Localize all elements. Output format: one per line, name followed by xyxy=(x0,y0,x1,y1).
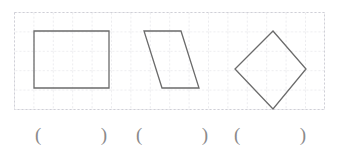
answer-input-3[interactable] xyxy=(240,134,299,135)
answer-slot-1[interactable]: ( ) xyxy=(35,118,107,151)
shape-rectangle xyxy=(34,31,109,88)
answer-slot-2[interactable]: ( ) xyxy=(136,118,208,151)
worksheet: ( ) ( ) ( ) xyxy=(0,0,339,151)
close-paren-2: ) xyxy=(202,125,208,144)
answers-row: ( ) ( ) ( ) xyxy=(0,118,339,151)
close-paren-1: ) xyxy=(101,125,107,144)
close-paren-3: ) xyxy=(300,125,306,144)
answer-input-1[interactable] xyxy=(41,134,100,135)
shape-parallelogram xyxy=(144,31,199,88)
answer-slot-3[interactable]: ( ) xyxy=(234,118,306,151)
shape-diamond-square xyxy=(235,31,306,109)
grid-area xyxy=(14,12,325,110)
answer-input-2[interactable] xyxy=(142,134,201,135)
shapes-layer xyxy=(14,12,325,110)
